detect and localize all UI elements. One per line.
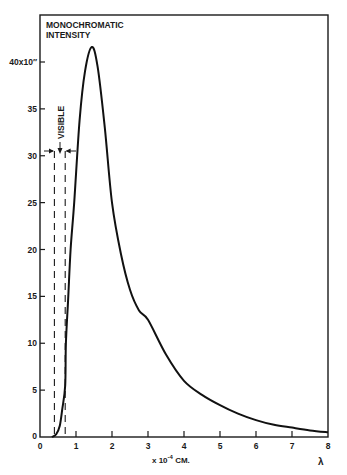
x-tick-label: 2 (110, 441, 115, 451)
x-axis: 012345678 (38, 431, 331, 451)
x-axis-label: x 10-4 CM. (152, 454, 190, 465)
chart-title-line-1: MONOCHROMATIC (46, 20, 124, 30)
intensity-curve (52, 47, 328, 437)
y-tick-label: 0 (32, 431, 37, 441)
x-tick-label: 0 (38, 441, 43, 451)
chart-title-line-2: INTENSITY (46, 30, 91, 40)
y-tick-label: 15 (28, 291, 38, 301)
x-axis-label-prefix: x 10 (152, 456, 168, 465)
center-arrow-head (58, 148, 63, 154)
x-tick-label: 3 (146, 441, 151, 451)
y-tick-label: 25 (28, 198, 38, 208)
x-axis-label-suffix: CM. (173, 456, 190, 465)
y-tick-label: 35 (28, 104, 38, 114)
visible-label: VISIBLE (56, 106, 66, 139)
x-tick-label: 5 (218, 441, 223, 451)
y-tick-label: 20 (28, 245, 38, 255)
y-tick-label: 40x10″ (9, 57, 37, 67)
lambda-symbol: λ (318, 456, 324, 467)
x-tick-label: 8 (326, 441, 331, 451)
y-tick-label: 30 (28, 151, 38, 161)
left-arrow-head (49, 149, 54, 154)
chart: MONOCHROMATIC INTENSITY 0510152025303540… (0, 0, 347, 475)
x-tick-label: 4 (182, 441, 187, 451)
y-tick-label: 5 (32, 385, 37, 395)
visible-annotation: VISIBLE (44, 106, 76, 437)
x-tick-label: 6 (254, 441, 259, 451)
x-tick-label: 7 (290, 441, 295, 451)
x-tick-label: 1 (74, 441, 79, 451)
right-arrow-head (66, 149, 71, 154)
y-tick-label: 10 (28, 338, 38, 348)
